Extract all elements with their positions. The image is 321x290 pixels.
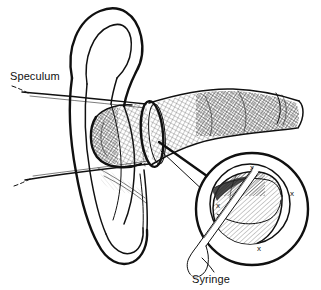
illustration-canvas: x x x x Speculum Syringe xyxy=(0,0,321,290)
inset-mark-left: x xyxy=(216,201,220,210)
ear-irrigation-illustration: x x x x Speculum Syringe xyxy=(0,0,321,290)
speculum-label: Speculum xyxy=(10,70,60,82)
concha-shading xyxy=(88,98,158,203)
inset-mark-right: x xyxy=(290,189,294,198)
syringe-label: Syringe xyxy=(192,273,230,285)
inset-mark-bottom: x xyxy=(257,244,261,253)
